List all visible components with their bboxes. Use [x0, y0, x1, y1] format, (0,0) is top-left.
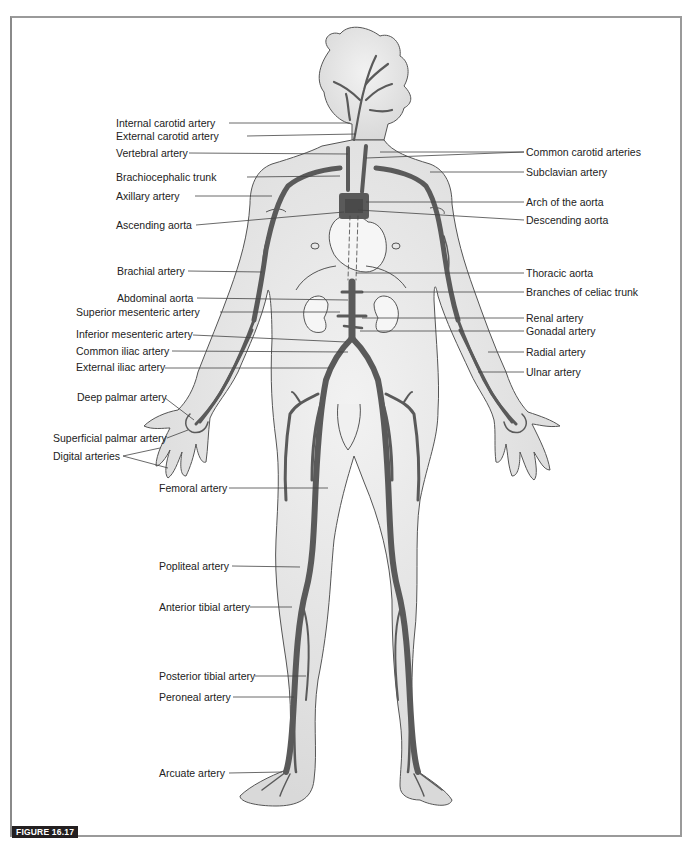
label-popliteal-artery: Popliteal artery: [159, 560, 229, 572]
label-common-iliac-artery: Common iliac artery: [76, 345, 169, 357]
label-ulnar-artery: Ulnar artery: [526, 366, 581, 378]
label-external-iliac-artery: External iliac artery: [76, 361, 165, 373]
kidney-left: [304, 296, 328, 332]
figure-number-tag: FIGURE 16.17: [12, 826, 78, 838]
label-superficial-palmar-artery: Superficial palmar artery: [53, 432, 167, 444]
label-inferior-mesenteric-artery: Inferior mesenteric artery: [76, 328, 193, 340]
label-vertebral-artery: Vertebral artery: [116, 147, 188, 159]
label-external-carotid-artery: External carotid artery: [116, 130, 219, 142]
label-digital-arteries: Digital arteries: [53, 450, 120, 462]
label-posterior-tibial-artery: Posterior tibial artery: [159, 670, 255, 682]
label-superior-mesenteric-artery: Superior mesenteric artery: [76, 306, 200, 318]
label-brachiocephalic-trunk: Brachiocephalic trunk: [116, 171, 216, 183]
label-femoral-artery: Femoral artery: [159, 482, 227, 494]
label-thoracic-aorta: Thoracic aorta: [526, 267, 593, 279]
label-axillary-artery: Axillary artery: [116, 190, 180, 202]
label-brachial-artery: Brachial artery: [117, 265, 185, 277]
label-internal-carotid-artery: Internal carotid artery: [116, 117, 215, 129]
label-arcuate-artery: Arcuate artery: [159, 767, 225, 779]
kidney-right: [374, 296, 398, 332]
anatomy-illustration: [0, 0, 691, 852]
label-ascending-aorta: Ascending aorta: [116, 219, 192, 231]
label-subclavian-artery: Subclavian artery: [526, 166, 607, 178]
label-radial-artery: Radial artery: [526, 346, 586, 358]
label-arch-of-the-aorta: Arch of the aorta: [526, 196, 604, 208]
label-anterior-tibial-artery: Anterior tibial artery: [159, 601, 250, 613]
label-descending-aorta: Descending aorta: [526, 214, 608, 226]
label-peroneal-artery: Peroneal artery: [159, 691, 231, 703]
label-branches-of-celiac-trunk: Branches of celiac trunk: [526, 286, 638, 298]
label-common-carotid-arteries: Common carotid arteries: [526, 146, 641, 158]
label-renal-artery: Renal artery: [526, 312, 583, 324]
label-gonadal-artery: Gonadal artery: [526, 325, 595, 337]
label-deep-palmar-artery: Deep palmar artery: [77, 391, 167, 403]
label-abdominal-aorta: Abdominal aorta: [117, 292, 193, 304]
